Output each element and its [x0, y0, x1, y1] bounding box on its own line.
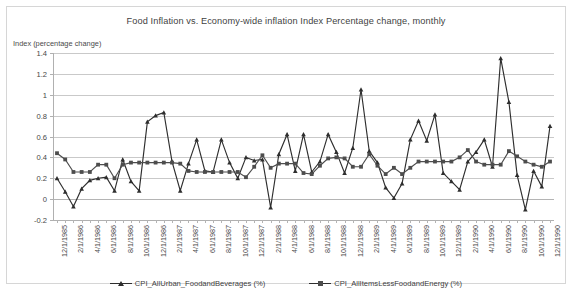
x-axis-tick-mark — [402, 220, 403, 223]
x-axis-tick-label: 12/1/1989 — [454, 225, 463, 257]
data-point-marker — [441, 160, 445, 164]
x-axis-tick-label: 4/1/1989 — [389, 225, 398, 253]
x-axis-tick-label: 2/1/1988 — [274, 225, 283, 253]
legend-item-food-and-beverages[interactable]: CPI_AllUrban_FoodandBeverages (%) — [110, 279, 265, 288]
data-point-marker — [170, 161, 174, 165]
x-axis-tick-mark — [279, 220, 280, 223]
y-axis-tick-label: 1 — [11, 90, 47, 99]
x-axis-tick-mark — [509, 220, 510, 223]
x-axis-tick-label: 10/1/1986 — [142, 225, 151, 257]
x-axis-tick-mark — [492, 220, 493, 223]
x-axis-tick-label: 2/1/1987 — [175, 225, 184, 253]
data-point-marker — [383, 185, 388, 189]
x-axis-tick-mark — [320, 220, 321, 223]
y-axis-tick-label: -0.2 — [11, 216, 47, 225]
data-point-marker — [351, 146, 356, 150]
x-axis-tick-mark — [164, 220, 165, 223]
data-point-marker — [235, 176, 240, 180]
x-axis-tick-mark — [501, 220, 502, 223]
x-axis-tick-mark — [336, 220, 337, 223]
y-axis-tick-label: 1.2 — [11, 69, 47, 78]
data-point-marker — [515, 173, 520, 177]
data-point-marker — [211, 170, 215, 174]
x-axis-tick-mark — [139, 220, 140, 223]
x-axis-tick-mark — [262, 220, 263, 223]
x-axis-tick-label: 8/1/1990 — [520, 225, 529, 253]
data-point-marker — [507, 149, 511, 153]
data-point-marker — [326, 132, 331, 136]
data-point-marker — [129, 161, 133, 165]
x-axis-tick-mark — [65, 220, 66, 223]
data-point-marker — [342, 171, 347, 175]
data-point-marker — [523, 160, 527, 164]
x-axis-tick-label: 4/1/1988 — [290, 225, 299, 253]
x-axis-tick-label: 12/1/1985 — [60, 225, 69, 257]
y-axis-tick-mark — [50, 199, 53, 200]
x-axis-tick-mark — [213, 220, 214, 223]
data-point-marker — [269, 166, 273, 170]
data-point-marker — [121, 163, 125, 167]
x-axis-tick-label: 10/1/1989 — [438, 225, 447, 257]
x-axis-tick-mark — [468, 220, 469, 223]
data-point-marker — [376, 164, 380, 168]
y-axis-line — [53, 53, 54, 221]
x-axis-tick-label: 12/1/1988 — [356, 225, 365, 257]
data-point-marker — [482, 163, 486, 167]
x-axis-tick-mark — [90, 220, 91, 223]
data-point-marker — [424, 138, 429, 142]
data-point-marker — [351, 165, 355, 169]
data-point-marker — [507, 100, 512, 104]
data-point-marker — [318, 164, 322, 168]
x-axis-tick-mark — [550, 220, 551, 223]
x-axis-tick-mark — [394, 220, 395, 223]
x-axis-tick-mark — [460, 220, 461, 223]
data-point-marker — [491, 163, 495, 167]
data-point-marker — [548, 124, 553, 128]
x-axis-tick-mark — [427, 220, 428, 223]
x-axis-tick-mark — [295, 220, 296, 223]
x-axis-tick-mark — [386, 220, 387, 223]
x-axis-tick-label: 4/1/1990 — [487, 225, 496, 253]
x-axis-tick-mark — [369, 220, 370, 223]
x-axis-tick-label: 10/1/1990 — [537, 225, 546, 257]
y-axis-tick-label: 0.4 — [11, 153, 47, 162]
data-point-marker — [416, 119, 421, 123]
data-point-marker — [458, 155, 462, 159]
y-axis-tick-label: 0.8 — [11, 111, 47, 120]
data-point-marker — [236, 170, 240, 174]
data-point-marker — [228, 170, 232, 174]
data-point-marker — [400, 172, 404, 176]
data-point-marker — [154, 161, 158, 165]
data-point-marker — [88, 170, 92, 174]
y-axis-tick-mark — [50, 157, 53, 158]
x-axis-tick-mark — [106, 220, 107, 223]
data-point-marker — [194, 137, 199, 141]
data-point-marker — [178, 188, 183, 192]
data-point-marker — [310, 172, 314, 176]
data-point-marker — [252, 165, 256, 169]
data-point-marker — [219, 170, 223, 174]
data-point-marker — [474, 160, 478, 164]
x-axis-tick-mark — [271, 220, 272, 223]
x-axis-tick-label: 12/1/1986 — [159, 225, 168, 257]
x-axis-tick-mark — [230, 220, 231, 223]
data-point-marker — [219, 137, 224, 141]
data-point-marker — [285, 132, 290, 136]
x-axis-tick-mark — [542, 220, 543, 223]
data-point-marker — [104, 163, 108, 167]
x-axis-tick-mark — [419, 220, 420, 223]
y-axis-tick-mark — [50, 116, 53, 117]
x-axis-tick-label: 8/1/1986 — [126, 225, 135, 253]
data-point-marker — [334, 155, 338, 159]
legend-item-all-items-less-food-and-energy[interactable]: CPI_AllItemsLessFoodandEnergy (%) — [309, 279, 462, 288]
y-axis-tick-mark — [50, 74, 53, 75]
data-point-marker — [293, 169, 298, 173]
x-axis-tick-mark — [156, 220, 157, 223]
data-point-marker — [532, 163, 536, 167]
x-axis-tick-mark — [287, 220, 288, 223]
data-point-marker — [203, 170, 207, 174]
data-point-marker — [244, 155, 249, 159]
data-point-marker — [400, 181, 405, 185]
x-axis-tick-label: 12/1/1990 — [553, 225, 562, 257]
x-axis-tick-label: 2/1/1990 — [471, 225, 480, 253]
